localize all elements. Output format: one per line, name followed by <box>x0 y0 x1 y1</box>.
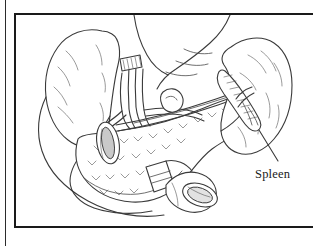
illustration-linework <box>39 15 292 216</box>
spleen-callout-label: Spleen <box>255 167 290 182</box>
figure-frame: .ln { fill:none; stroke:#3a3a3a; stroke-… <box>14 13 313 228</box>
anatomy-illustration: .ln { fill:none; stroke:#3a3a3a; stroke-… <box>16 15 313 228</box>
figure-page: .ln { fill:none; stroke:#3a3a3a; stroke-… <box>0 0 313 246</box>
page-margin-rule <box>5 0 6 246</box>
duct-ligature-upper <box>120 55 142 71</box>
bowel-cut-end-lower <box>166 172 221 212</box>
stomach-outline <box>134 15 230 89</box>
figure-inner: .ln { fill:none; stroke:#3a3a3a; stroke-… <box>16 15 313 226</box>
